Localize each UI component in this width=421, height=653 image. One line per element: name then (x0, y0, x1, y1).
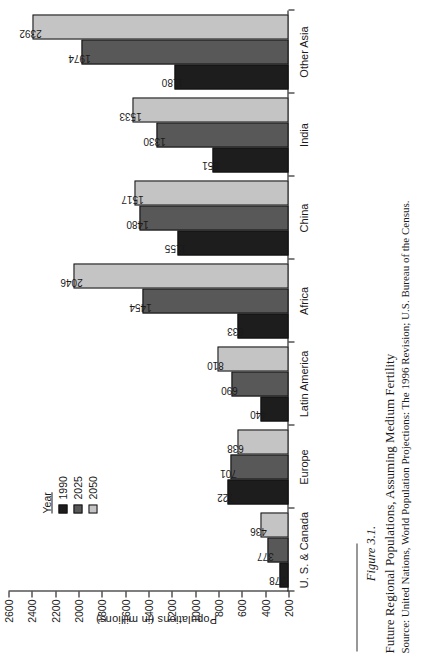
figure-page: Populations (in millions) 26002400220020… (0, 0, 421, 653)
legend: Year 199020252050 (40, 476, 101, 513)
y-tick-label: 1600 (119, 599, 131, 622)
bar-value-label: 633 (227, 325, 244, 336)
bar-value-label: 1330 (143, 135, 165, 146)
y-tick-label: 2600 (2, 599, 14, 622)
bar-value-label: 278 (269, 574, 286, 585)
category-label: China (297, 203, 309, 232)
bar: 1180 (174, 64, 288, 89)
y-tick (288, 591, 289, 597)
bar: 2392 (32, 14, 288, 39)
bar: 1517 (134, 180, 288, 205)
legend-swatch (88, 504, 97, 513)
x-tick (288, 92, 294, 93)
bar-value-label: 377 (257, 550, 274, 561)
y-tick-label: 1800 (95, 599, 107, 622)
y-tick (55, 591, 56, 597)
legend-swatch (58, 504, 67, 513)
y-tick-label: 400 (259, 599, 271, 617)
bar-value-label: 810 (207, 359, 224, 370)
category-label: Latin America (297, 350, 309, 417)
bar-chart: Populations (in millions) 26002400220020… (0, 0, 352, 653)
y-tick-label: 2200 (49, 599, 61, 622)
y-tick (241, 591, 242, 597)
bar-value-label: 1974 (68, 52, 90, 63)
caption-title: Future Regional Populations, Assuming Me… (381, 0, 397, 653)
bar: 436 (260, 512, 288, 537)
legend-item: 2050 (86, 476, 98, 513)
bar: 722 (227, 479, 288, 504)
y-tick (195, 591, 196, 597)
y-tick (148, 591, 149, 597)
legend-item: 2025 (71, 476, 83, 513)
bar: 1974 (81, 39, 288, 64)
y-tick-label: 1200 (165, 599, 177, 622)
category-label: Other Asia (297, 26, 309, 77)
bar: 701 (230, 454, 288, 479)
caption-source: Source: United Nations, World Population… (398, 0, 412, 653)
bar-value-label: 638 (227, 442, 244, 453)
bar-group: 115514801517China (8, 176, 288, 259)
x-tick (288, 341, 294, 342)
x-tick (288, 424, 294, 425)
bar-value-label: 1180 (161, 76, 183, 87)
figure-caption: Figure 3.1. Future Regional Populations,… (356, 0, 412, 653)
bar-value-label: 2046 (60, 276, 82, 287)
bar-value-label: 440 (250, 408, 267, 419)
bar: 1454 (142, 288, 288, 313)
bar-group: 85113301533India (8, 93, 288, 176)
y-tick-label: 200 (282, 599, 294, 617)
legend-swatch (73, 504, 82, 513)
x-tick (288, 507, 294, 508)
y-tick (265, 591, 266, 597)
legend-label: 1990 (56, 476, 68, 499)
y-tick-label: 1000 (189, 599, 201, 622)
bar-value-label: 1155 (164, 242, 186, 253)
x-tick (288, 9, 294, 10)
y-tick-label: 2000 (72, 599, 84, 622)
bar: 633 (237, 313, 288, 338)
y-tick-label: 600 (235, 599, 247, 617)
legend-item: 1990 (56, 476, 68, 513)
y-tick (218, 591, 219, 597)
bar: 638 (237, 429, 288, 454)
bar: 851 (212, 147, 288, 172)
figure-number: Figure 3.1. (363, 453, 378, 653)
bar-value-label: 2392 (19, 27, 41, 38)
bar-value-label: 690 (221, 384, 238, 395)
bar-value-label: 701 (219, 467, 236, 478)
bar-value-label: 851 (202, 159, 219, 170)
category-label: U. S. & Canada (297, 511, 309, 587)
bar: 1533 (132, 97, 288, 122)
bar: 2046 (73, 263, 288, 288)
bar-value-label: 1533 (119, 110, 141, 121)
bar-group: 118019742392Other Asia (8, 10, 288, 93)
legend-title: Year (40, 476, 52, 513)
category-label: India (297, 123, 309, 147)
bar: 810 (217, 346, 288, 371)
x-tick (288, 175, 294, 176)
bar-group: 63314542046Africa (8, 259, 288, 342)
bar: 377 (267, 537, 288, 562)
y-tick (31, 591, 32, 597)
y-tick (101, 591, 102, 597)
bar: 1480 (139, 205, 288, 230)
y-tick (8, 591, 9, 597)
bar: 278 (279, 562, 288, 587)
category-label: Africa (297, 286, 309, 314)
bar-value-label: 436 (250, 525, 267, 536)
x-tick (288, 590, 294, 591)
bar-value-label: 722 (217, 491, 234, 502)
y-tick-label: 800 (212, 599, 224, 617)
x-tick (288, 258, 294, 259)
caption-rule (356, 543, 357, 651)
bar-value-label: 1517 (121, 193, 143, 204)
bar-group: 440690810Latin America (8, 342, 288, 425)
bar-value-label: 1480 (126, 218, 148, 229)
y-tick (171, 591, 172, 597)
bar: 1155 (177, 230, 288, 255)
y-tick-label: 1400 (142, 599, 154, 622)
legend-label: 2050 (86, 476, 98, 499)
y-tick (125, 591, 126, 597)
legend-label: 2025 (71, 476, 83, 499)
bar: 1330 (156, 122, 288, 147)
